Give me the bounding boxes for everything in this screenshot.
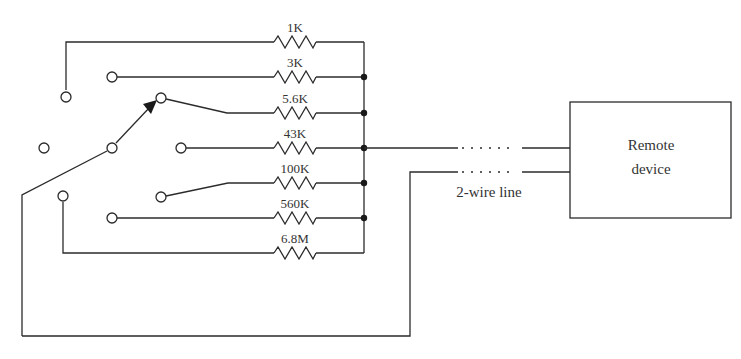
branch-3k: 3K [117, 55, 367, 83]
resistor-5-6k [274, 107, 316, 119]
resistor-label-100k: 100K [281, 161, 311, 176]
remote-device-label-line2: device [631, 161, 670, 177]
switch-contact-43k [176, 143, 186, 153]
switch-wiper [116, 107, 150, 143]
switch-contact-5-6k [156, 93, 166, 103]
resistor-label-560k: 560K [281, 196, 311, 211]
switch-contact-unused [39, 143, 49, 153]
circuit-diagram: 1K 3K 5.6K 43K 100K 560K [0, 0, 741, 359]
line-label: 2-wire line [456, 184, 522, 200]
branch-100k: 100K [166, 161, 367, 196]
branch-6-8m: 6.8M [63, 202, 364, 259]
branch-5-6k: 5.6K [166, 91, 367, 119]
switch-contact-6-8m [58, 191, 68, 201]
resistor-label-43k: 43K [284, 126, 307, 141]
resistor-1k [274, 36, 316, 48]
resistor-100k [274, 177, 316, 189]
junction-dot [361, 110, 367, 116]
branch-43k: 43K [186, 126, 367, 154]
remote-device: Remote device [570, 102, 731, 218]
switch-contact-100k [156, 192, 166, 202]
junction-dot [361, 180, 367, 186]
remote-device-box [570, 102, 731, 218]
resistor-560k [274, 212, 316, 224]
resistor-label-6-8m: 6.8M [281, 231, 309, 246]
switch-contact-1k [61, 92, 71, 102]
resistor-label-5-6k: 5.6K [282, 91, 308, 106]
rotary-switch [22, 72, 186, 336]
switch-contact-3k [107, 72, 117, 82]
resistor-label-1k: 1K [287, 20, 304, 35]
resistor-43k [274, 142, 316, 154]
resistor-3k [274, 71, 316, 83]
switch-contact-560k [107, 213, 117, 223]
branch-560k: 560K [117, 196, 367, 224]
remote-device-label-line1: Remote [628, 137, 675, 153]
junction-dot [361, 74, 367, 80]
resistor-label-3k: 3K [287, 55, 304, 70]
resistor-6-8m [274, 247, 316, 259]
junction-dot [361, 215, 367, 221]
switch-pivot [107, 143, 117, 153]
switch-common-wire [22, 151, 107, 336]
